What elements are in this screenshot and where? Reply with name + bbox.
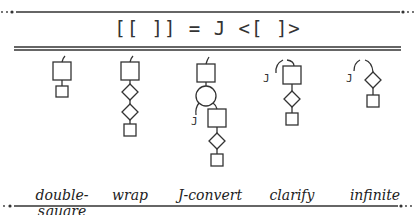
j-convert-diagram <box>196 57 226 166</box>
clarify-j-glyph: J <box>263 72 270 85</box>
double-square-diagram <box>53 56 71 97</box>
wrap-diagram <box>121 56 139 136</box>
label-infinite: infinite <box>325 187 415 203</box>
infinite-j-glyph: J <box>346 72 353 85</box>
clarify-diagram <box>276 60 301 125</box>
infinite-diagram <box>354 60 381 107</box>
j-convert-j-glyph: J <box>191 115 198 128</box>
page-title: [[ ]] = J <[ ]> <box>0 17 415 39</box>
